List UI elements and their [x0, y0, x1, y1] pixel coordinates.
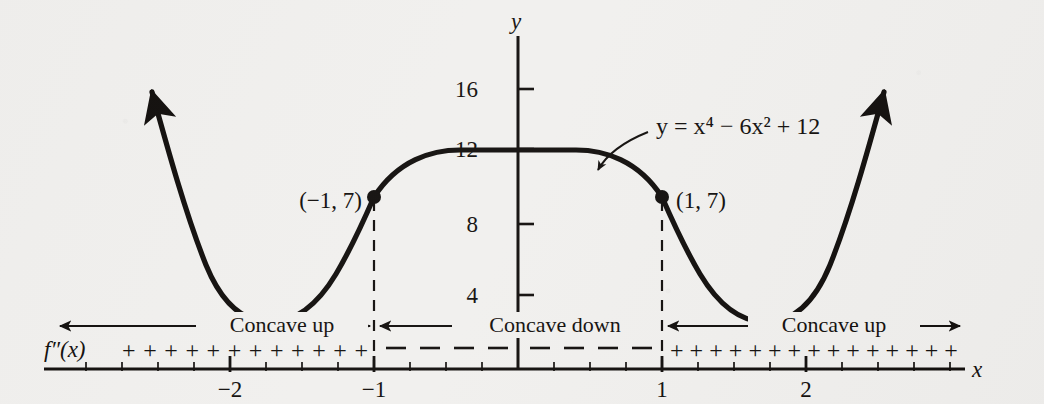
- y-axis-ticks: [518, 89, 534, 295]
- second-derivative-label: f″(x): [44, 338, 86, 361]
- inflection-point-label-left: (−1, 7): [299, 189, 362, 212]
- sign-row-plus-right: ++++++++ +++++++: [670, 338, 958, 362]
- y-tick-label-12: 12: [455, 138, 478, 161]
- y-tick-label-16: 16: [455, 78, 478, 101]
- concavity-figure: y x 16 12 8 4 −2 −1 1 2 y = x⁴ − 6x² + 1…: [0, 0, 1044, 404]
- y-axis-label: y: [511, 10, 521, 33]
- x-axis-label: x: [972, 358, 982, 381]
- sign-row-plus-left: ++++++ ++++++: [122, 338, 368, 362]
- y-tick-label-8: 8: [467, 213, 479, 236]
- region-label-middle: Concave down: [489, 314, 620, 336]
- region-label-right: Concave up: [782, 314, 886, 336]
- x-tick-label-minus1: −1: [362, 378, 386, 401]
- inflection-point-label-right: (1, 7): [676, 189, 726, 212]
- equation-leader-arrow: [598, 132, 648, 170]
- x-tick-label-2: 2: [800, 378, 812, 401]
- y-tick-label-4: 4: [467, 284, 479, 307]
- equation-label: y = x⁴ − 6x² + 12: [656, 114, 820, 138]
- x-tick-label-1: 1: [656, 378, 668, 401]
- region-label-left: Concave up: [230, 314, 334, 336]
- x-tick-label-minus2: −2: [218, 378, 242, 401]
